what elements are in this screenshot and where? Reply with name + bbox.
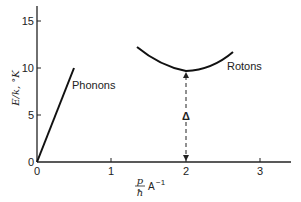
delta-gap-arrow: Δ	[182, 72, 190, 161]
arrow-down-icon	[183, 155, 189, 161]
rotons-label: Rotons	[227, 60, 262, 72]
x-tick-label: 2	[183, 165, 189, 177]
x-ticks: 0 1 2 3	[34, 158, 263, 177]
x-label-unit: A	[148, 181, 155, 192]
chart: 0 5 10 15 0 1 2 3 E/k, °K p ħ A −1 Phono…	[0, 0, 301, 202]
y-tick-label: 10	[22, 62, 34, 74]
phonon-curve	[37, 68, 74, 162]
x-tick-label: 1	[108, 165, 114, 177]
y-axis-label: E/k, °K	[10, 70, 21, 107]
y-tick-label: 5	[28, 109, 34, 121]
x-label-denominator: ħ	[137, 187, 143, 198]
x-tick-label: 0	[34, 165, 40, 177]
y-ticks: 0 5 10 15	[22, 15, 41, 168]
x-tick-label: 3	[257, 165, 263, 177]
x-label-numerator: p	[137, 175, 144, 186]
delta-label: Δ	[182, 110, 190, 122]
arrow-up-icon	[183, 72, 189, 78]
phonons-label: Phonons	[72, 79, 116, 91]
x-axis-label: p ħ A −1	[135, 175, 166, 198]
y-tick-label: 15	[22, 15, 34, 27]
x-label-exponent: −1	[156, 178, 166, 187]
roton-curve	[137, 47, 233, 71]
